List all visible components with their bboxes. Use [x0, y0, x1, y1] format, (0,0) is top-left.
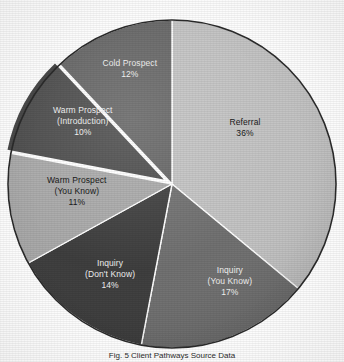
pie-chart-svg: [0, 0, 344, 362]
pie-sheen-overlay: [9, 21, 335, 347]
figure-caption: Fig. 5 Client Pathways Source Data: [0, 351, 344, 362]
pie-chart-figure: Referral36%Inquiry(You Know)17%Inquiry(D…: [0, 0, 344, 362]
